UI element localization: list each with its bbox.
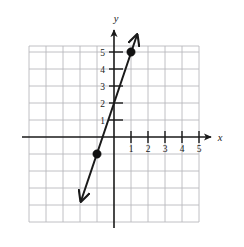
x-tick-label: 4 <box>180 144 185 154</box>
y-tick-label: 2 <box>100 99 105 109</box>
y-tick-labels: 1 2 3 4 5 <box>100 48 105 126</box>
plotted-line-group <box>81 35 137 201</box>
y-axis-label: y <box>113 13 119 24</box>
data-point-marker <box>127 48 135 56</box>
linear-function-line <box>81 35 137 201</box>
y-tick-label: 1 <box>100 116 105 126</box>
x-tick-labels: 1 2 3 4 5 <box>129 144 202 154</box>
y-tick-label: 3 <box>100 82 105 92</box>
axes <box>22 30 211 228</box>
x-tick-label: 3 <box>163 144 168 154</box>
x-tick-label: 5 <box>197 144 202 154</box>
x-axis-label: x <box>217 132 223 143</box>
y-tick-label: 5 <box>100 48 105 58</box>
x-tick-label: 2 <box>146 144 151 154</box>
graph-canvas: 1 2 3 4 5 1 2 3 4 5 x y <box>0 0 244 247</box>
x-tick-label: 1 <box>129 144 134 154</box>
y-tick-label: 4 <box>100 65 105 75</box>
data-point-marker <box>93 150 101 158</box>
coordinate-plane-figure: 1 2 3 4 5 1 2 3 4 5 x y <box>0 0 244 247</box>
